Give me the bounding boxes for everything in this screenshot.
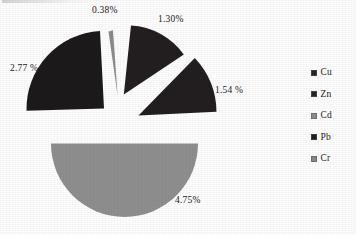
- legend-label-cu: Cu: [321, 68, 333, 78]
- legend-item-cu[interactable]: Cu: [311, 62, 356, 84]
- legend-swatch-cu: [311, 70, 317, 76]
- legend-label-zn: Zn: [321, 90, 332, 100]
- legend-item-cd[interactable]: Cd: [311, 105, 356, 127]
- legend-swatch-pb: [311, 134, 317, 140]
- legend-item-pb[interactable]: Pb: [311, 127, 356, 149]
- legend-label-pb: Pb: [321, 133, 331, 143]
- data-label-cd: 0.38%: [92, 6, 118, 16]
- legend-item-zn[interactable]: Zn: [311, 84, 356, 106]
- data-label-cr: 4.75%: [175, 196, 201, 206]
- legend-swatch-cr: [311, 156, 317, 162]
- data-label-pb: 2.77 %: [10, 64, 38, 74]
- data-label-cu: 1.30%: [158, 15, 184, 25]
- legend-swatch-cd: [311, 113, 317, 119]
- pie-slice-cr[interactable]: [51, 144, 198, 218]
- legend-label-cd: Cd: [321, 111, 333, 121]
- pie-slice-cd[interactable]: [109, 30, 118, 95]
- pie-chart-figure: 0.38% 1.30% 1.54 % 2.77 % 4.75% Cu Zn Cd…: [0, 0, 356, 235]
- data-label-zn: 1.54 %: [215, 86, 243, 96]
- legend-item-cr[interactable]: Cr: [311, 148, 356, 170]
- pie-plot-area: 0.38% 1.30% 1.54 % 2.77 % 4.75%: [0, 0, 290, 235]
- chart-legend: Cu Zn Cd Pb Cr: [311, 62, 356, 170]
- legend-swatch-zn: [311, 91, 317, 97]
- legend-label-cr: Cr: [321, 154, 331, 164]
- pie-svg: [0, 0, 290, 235]
